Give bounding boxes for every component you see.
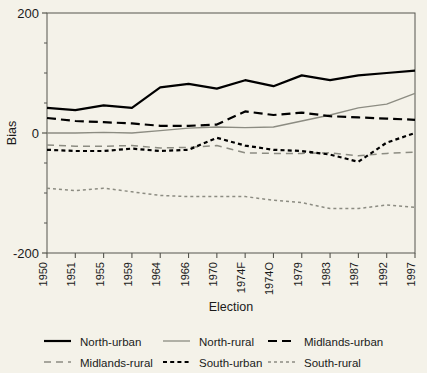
legend-label-midlands-urban: Midlands-urban	[304, 336, 383, 348]
series-line-midlands-rural	[47, 145, 415, 156]
legend-label-north-urban: North-urban	[80, 336, 141, 348]
x-tick-label: 1974O	[263, 262, 275, 295]
x-tick-label: 1987	[348, 262, 360, 286]
legend-label-south-rural: South-rural	[304, 357, 361, 369]
x-tick-label: 1955	[94, 262, 106, 286]
chart-series	[47, 71, 415, 209]
x-tick-label: 1966	[179, 262, 191, 286]
y-axis-title: Bias	[5, 121, 19, 145]
legend-label-south-urban: South-urban	[199, 357, 262, 369]
x-axis-title: Election	[209, 300, 254, 314]
y-tick-label: 200	[17, 6, 39, 21]
chart-container: -200020019501951195519591964196619701974…	[0, 0, 427, 373]
series-line-south-urban	[47, 133, 415, 162]
series-line-north-rural	[47, 93, 415, 133]
series-line-south-rural	[47, 188, 415, 208]
x-tick-label: 1997	[405, 262, 417, 286]
x-tick-label: 1979	[292, 262, 304, 286]
x-tick-label: 1974F	[235, 262, 247, 293]
y-tick-label: 0	[32, 126, 39, 141]
x-tick-label: 1992	[377, 262, 389, 286]
chart-axes	[42, 13, 415, 258]
series-line-north-urban	[47, 71, 415, 111]
legend-label-midlands-rural: Midlands-rural	[80, 357, 153, 369]
x-tick-label: 1959	[122, 262, 134, 286]
x-tick-label: 1970	[207, 262, 219, 286]
x-tick-label: 1951	[65, 262, 77, 286]
x-tick-label: 1950	[37, 262, 49, 286]
y-tick-label: -200	[13, 246, 39, 261]
legend-label-north-rural: North-rural	[199, 336, 254, 348]
chart-legend: North-urbanNorth-ruralMidlands-urbanMidl…	[44, 336, 383, 369]
x-tick-label: 1964	[150, 262, 162, 286]
series-line-midlands-urban	[47, 111, 415, 125]
bias-by-election-line-chart: -200020019501951195519591964196619701974…	[0, 0, 427, 373]
x-tick-label: 1983	[320, 262, 332, 286]
